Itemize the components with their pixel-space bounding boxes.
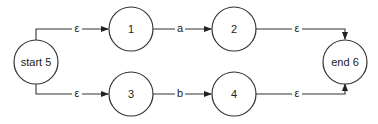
edge-2-to-end: ε [256,22,345,39]
edge-start-to-3: ε [36,84,108,100]
node-label: 1 [128,23,134,35]
nfa-diagram: ε a ε ε b ε start 5 1 2 3 [0,0,378,124]
node-1: 1 [109,7,153,51]
edge-1-to-2: a [153,22,211,35]
node-2: 2 [212,7,256,51]
node-label: 4 [231,88,237,100]
node-label: 3 [128,88,134,100]
node-label: start 5 [21,56,52,68]
edge-label: b [177,87,183,99]
edge-label: ε [295,87,300,99]
edge-label: ε [75,87,80,99]
edge-4-to-end: ε [256,84,345,100]
edge-label: ε [295,22,300,34]
node-label: end 6 [331,56,359,68]
edge-label: a [177,22,184,34]
edge-3-to-4: b [153,87,211,100]
edge-start-to-1: ε [36,22,108,40]
edge-label: ε [75,22,80,34]
node-end: end 6 [323,40,367,84]
node-4: 4 [212,72,256,116]
node-label: 2 [231,23,237,35]
node-3: 3 [109,72,153,116]
node-start: start 5 [14,40,58,84]
